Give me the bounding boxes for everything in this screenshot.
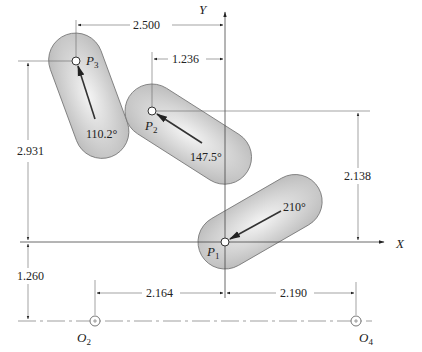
dim-p2-y: 2.138: [344, 169, 371, 183]
y-axis-label: Y: [199, 2, 208, 17]
dim-o2-x: 2.164: [146, 286, 173, 300]
point-p2: [148, 107, 156, 115]
point-p1: [221, 238, 229, 246]
angle-p2: 147.5°: [190, 150, 222, 164]
ground-pivot-o2: [90, 316, 100, 326]
angle-p1: 210°: [283, 200, 306, 214]
mechanism-diagram: Y X 2.500 1.236 2.138 2.931 1.260 2.164 …: [0, 0, 422, 352]
label-o2: O2: [77, 330, 91, 347]
dim-p3-x: 2.500: [133, 18, 160, 32]
point-p3: [72, 57, 80, 65]
x-axis-label: X: [395, 236, 405, 251]
dim-p2-x: 1.236: [172, 52, 199, 66]
ground-pivot-o4: [351, 316, 361, 326]
dim-o4-x: 2.190: [280, 286, 307, 300]
label-o4: O4: [359, 330, 373, 347]
angle-p3: 110.2°: [86, 127, 118, 141]
link-p3: [41, 25, 137, 166]
dim-pivot-y: 1.260: [17, 269, 44, 283]
dim-p3-y: 2.931: [17, 144, 44, 158]
